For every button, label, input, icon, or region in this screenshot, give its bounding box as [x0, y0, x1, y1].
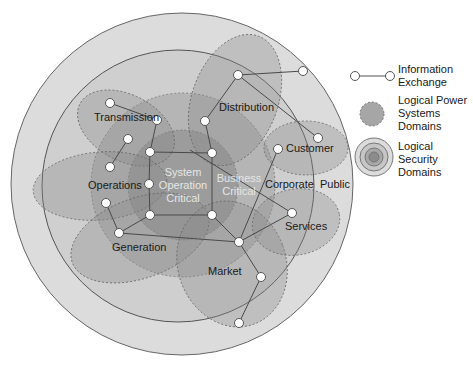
distribution-node: [234, 71, 243, 80]
business-critical-label-1: Business: [217, 172, 262, 184]
market-label: Market: [208, 265, 242, 277]
customer-node: [274, 145, 283, 154]
generation-node: [115, 229, 124, 238]
legend-security-domains-2: Security: [398, 153, 438, 165]
corporate-label: Corporate: [265, 178, 314, 190]
generation-label: Generation: [112, 241, 166, 253]
system-operation-critical-label-3: Critical: [166, 192, 200, 204]
transmission-label: Transmission: [94, 111, 159, 123]
legend-security-domains-3: Domains: [398, 166, 442, 178]
legend-power-domains-1: Logical Power: [398, 94, 467, 106]
operations-node: [102, 199, 111, 208]
operations-node: [106, 163, 115, 172]
customer-label: Customer: [286, 142, 334, 154]
transmission-node: [106, 99, 115, 108]
legend-node-icon: [351, 72, 360, 81]
core-node: [146, 148, 155, 157]
core-node: [208, 211, 217, 220]
legend-power-domain-icon: [360, 102, 384, 126]
market-node: [257, 273, 266, 282]
market-node: [235, 238, 244, 247]
legend-security-ring-icon: [369, 152, 379, 162]
distribution-node: [201, 117, 210, 126]
legend-power-domains-2: Systems: [398, 107, 441, 119]
system-operation-critical-label-1: System: [165, 166, 202, 178]
public-label: Public: [320, 178, 350, 190]
public-node: [299, 67, 308, 76]
business-critical-label-2: Critical: [222, 185, 256, 197]
legend-security-domains-1: Logical: [398, 140, 433, 152]
legend-node-icon: [386, 72, 395, 81]
system-operation-critical-label-2: Operation: [159, 179, 207, 191]
smart-grid-diagram: Transmission Distribution Customer Opera…: [0, 0, 473, 367]
market-node: [235, 319, 244, 328]
transmission-node: [124, 135, 133, 144]
core-node: [208, 149, 217, 158]
legend-information-exchange-1: Information: [398, 63, 453, 75]
core-node: [145, 180, 154, 189]
distribution-label: Distribution: [219, 101, 274, 113]
legend: Information Exchange Logical Power Syste…: [351, 63, 468, 178]
core-node: [146, 211, 155, 220]
operations-label: Operations: [88, 179, 142, 191]
legend-power-domains-3: Domains: [398, 120, 442, 132]
legend-information-exchange-2: Exchange: [398, 76, 447, 88]
services-label: Services: [285, 220, 328, 232]
services-node: [288, 209, 297, 218]
